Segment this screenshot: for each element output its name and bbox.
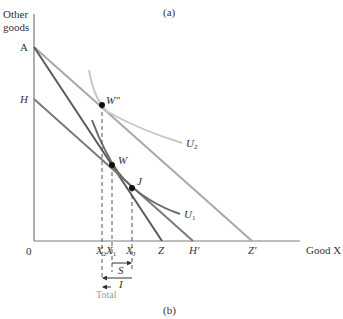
caption-top: (a) — [163, 6, 176, 19]
y-axis-label-line1: Other — [3, 8, 28, 20]
point-label-Z: Z — [158, 244, 165, 256]
income-substitution-diagram: (a) Other goods A H 0 U2 U1 W″ W J X2 X1… — [0, 0, 343, 319]
point-W — [109, 162, 115, 168]
curve-label-U1: U1 — [184, 208, 196, 222]
point-label-W: W — [118, 154, 128, 166]
curve-label-U2: U2 — [186, 137, 198, 151]
x-tick-XJ: XJ — [125, 244, 136, 258]
point-label-H: H — [19, 93, 29, 105]
point-label-H-prime: H′ — [188, 244, 200, 256]
x-tick-X1: X1 — [105, 244, 117, 258]
x-tick-X2: X2 — [95, 244, 107, 258]
budget-line-HHprime — [34, 99, 193, 241]
point-W-double-prime — [99, 102, 105, 108]
total-effect-label: Total — [96, 289, 117, 300]
caption-bottom: (b) — [163, 304, 176, 317]
origin-label: 0 — [26, 245, 32, 257]
income-effect-label: I — [118, 278, 124, 290]
point-label-A: A — [20, 41, 28, 53]
y-axis-label-line2: goods — [3, 21, 29, 33]
substitution-effect-label: S — [118, 264, 124, 276]
x-axis-label: Good X — [306, 244, 341, 256]
point-label-W-double-prime: W″ — [106, 94, 120, 106]
point-label-Z-prime: Z′ — [248, 244, 257, 256]
point-label-J: J — [137, 175, 143, 187]
point-J — [129, 185, 135, 191]
